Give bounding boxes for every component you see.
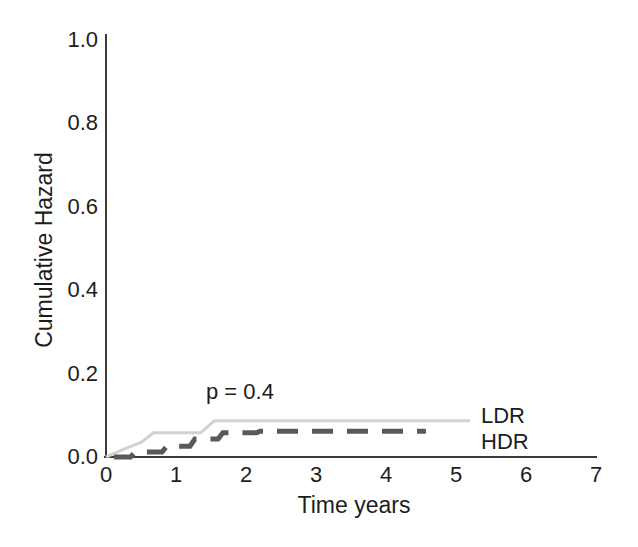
x-axis-title: Time years <box>254 492 454 518</box>
x-tick-label: 2 <box>216 462 276 488</box>
x-tick-label: 0 <box>76 462 136 488</box>
y-tick-label: 0.2 <box>36 361 98 387</box>
y-tick-label: 1.0 <box>36 27 98 53</box>
x-tick-label: 6 <box>496 462 556 488</box>
x-tick-label: 5 <box>426 462 486 488</box>
y-tick-label: 0.4 <box>36 277 98 303</box>
hdr-curve-label: HDR <box>481 430 529 454</box>
y-tick-label: 0.6 <box>36 194 98 220</box>
x-tick-label: 3 <box>286 462 346 488</box>
x-tick-label: 7 <box>566 462 626 488</box>
p-value-annotation: p = 0.4 <box>206 380 274 404</box>
ldr-curve-label: LDR <box>481 404 525 428</box>
x-tick-label: 4 <box>356 462 416 488</box>
y-tick-label: 0.8 <box>36 110 98 136</box>
hdr-curve <box>106 431 426 457</box>
y-axis-title: Cumulative Hazard <box>31 130 57 370</box>
cumulative-hazard-figure: Cumulative Hazard Time years p = 0.4 LDR… <box>0 0 638 547</box>
x-tick-label: 1 <box>146 462 206 488</box>
